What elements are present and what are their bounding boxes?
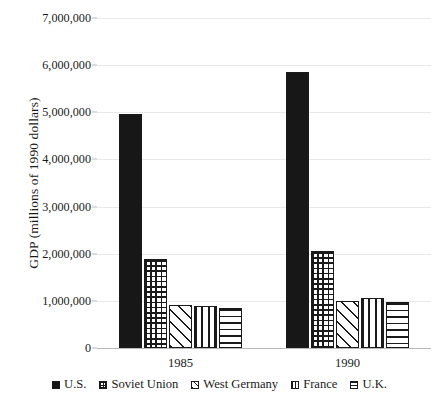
legend-swatch-icon [99,381,107,389]
y-tick-label: 3,000,000 [42,199,91,214]
legend-label: U.S. [64,377,86,392]
y-axis-title: GDP (millions of 1990 dollars) [26,63,42,303]
chart-legend: U.S.Soviet UnionWest GermanyFranceU.K. [0,377,439,392]
y-tick-label: 0 [85,341,91,356]
legend-label: Soviet Union [111,377,178,392]
bar-group: 1985 [97,18,264,348]
bar [219,308,242,348]
legend-item: U.K. [350,377,387,392]
legend-item: Soviet Union [99,377,178,392]
legend-label: France [303,377,337,392]
y-tick-label: 2,000,000 [42,246,91,261]
legend-item: France [291,377,337,392]
bar [144,259,167,348]
y-tick-label: 7,000,000 [42,11,91,26]
y-tick-label: 5,000,000 [42,105,91,120]
gdp-bar-chart: GDP (millions of 1990 dollars) 01,000,00… [0,0,439,403]
legend-item: U.S. [52,377,86,392]
legend-swatch-icon [291,381,299,389]
y-tick-label: 1,000,000 [42,293,91,308]
x-tick-label: 1990 [335,356,360,371]
bar-group: 1990 [264,18,431,348]
bar [119,114,142,348]
bar-groups: 19851990 [97,18,431,348]
legend-label: West Germany [203,377,278,392]
bar [169,305,192,348]
y-tick-label: 6,000,000 [42,58,91,73]
legend-swatch-icon [191,381,199,389]
legend-label: U.K. [362,377,387,392]
y-tick-label: 4,000,000 [42,152,91,167]
bar [361,298,384,348]
bar [311,251,334,348]
legend-swatch-icon [52,381,60,389]
x-tick-label: 1985 [168,356,193,371]
axis-baseline [97,348,431,349]
bar [336,301,359,348]
legend-swatch-icon [350,381,358,389]
legend-item: West Germany [191,377,278,392]
bar [286,72,309,348]
bar [194,306,217,348]
plot-area: 01,000,0002,000,0003,000,0004,000,0005,0… [97,18,431,348]
bar [386,302,409,348]
